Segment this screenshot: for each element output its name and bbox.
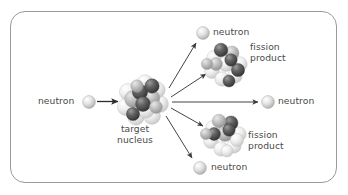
label-fission-product-top-line2: product bbox=[250, 53, 286, 64]
label-target-nucleus-line2: nucleus bbox=[104, 135, 166, 146]
label-target-nucleus-line1: target bbox=[104, 124, 166, 135]
arrow-to-fission-product-top bbox=[171, 74, 206, 97]
fission-product-bottom bbox=[200, 114, 246, 157]
nuclear-fission-diagram: neutron target nucleus neutron fission p… bbox=[0, 0, 348, 195]
neutron-incoming-sphere bbox=[83, 96, 96, 109]
neutron-top-sphere bbox=[197, 27, 210, 40]
fission-product-top bbox=[201, 43, 247, 87]
label-neutron-bottom: neutron bbox=[211, 162, 247, 173]
label-incoming-neutron: neutron bbox=[38, 96, 74, 107]
label-neutron-top: neutron bbox=[213, 27, 249, 38]
neutron-middle-sphere bbox=[262, 96, 275, 109]
target-nucleus bbox=[117, 75, 168, 125]
label-neutron-middle: neutron bbox=[278, 96, 314, 107]
arrow-to-neutron-top bbox=[169, 43, 196, 88]
neutron-bottom-sphere bbox=[194, 162, 207, 175]
label-fission-product-bottom-line2: product bbox=[248, 141, 284, 152]
arrow-to-fission-product-bottom bbox=[171, 108, 203, 126]
label-fission-product-bottom-line1: fission bbox=[248, 130, 278, 141]
label-fission-product-top-line1: fission bbox=[250, 42, 280, 53]
arrow-to-neutron-bottom bbox=[166, 116, 192, 158]
